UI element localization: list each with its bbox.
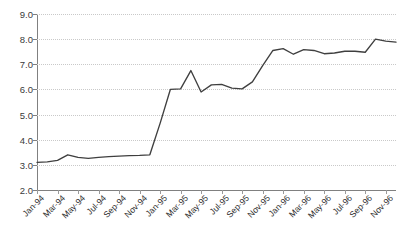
y-axis-tick-label: 5.0 [20, 109, 33, 120]
y-axis-tick-label: 4.0 [20, 134, 33, 145]
x-axis-line [37, 190, 396, 191]
y-axis-tick-label: 6.0 [20, 84, 33, 95]
y-axis-tick-label: 7.0 [20, 59, 33, 70]
series-layer [37, 14, 396, 190]
y-axis-tick-label: 2.0 [20, 185, 33, 196]
y-axis-tick-label: 8.0 [20, 34, 33, 45]
y-axis-tick-label: 9.0 [20, 9, 33, 20]
line-chart: 9.08.07.06.05.04.03.02.0 Jan-94Mar-94May… [0, 0, 405, 251]
plot-area [37, 14, 396, 190]
data-series-line [37, 39, 396, 162]
y-axis-tick-label: 3.0 [20, 159, 33, 170]
